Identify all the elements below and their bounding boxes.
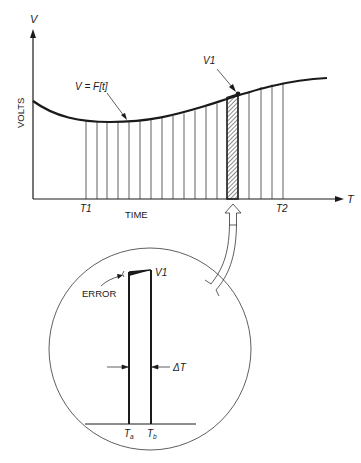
- curve-label: V = F[t]: [75, 81, 108, 92]
- integration-diagram: V VOLTS T TIME T1 T2 V = F[t]: [0, 0, 361, 463]
- delta-t-label: ΔT: [172, 362, 187, 373]
- x-axis-label: T: [347, 193, 355, 205]
- y-axis-arrow-icon: [30, 29, 36, 38]
- x-axis-arrow-icon: [335, 196, 344, 202]
- x-axis: [33, 196, 344, 202]
- error-label: ERROR: [82, 288, 116, 299]
- y-axis-label: V: [30, 13, 39, 25]
- t1-label: T1: [80, 203, 92, 214]
- curve-pointer-arrow-icon: [107, 93, 127, 120]
- ta-label: Ta: [124, 428, 134, 440]
- error-pointer-arrow-icon: [101, 271, 124, 286]
- y-axis-title: VOLTS: [15, 98, 26, 128]
- magnify-arrow-icon: [211, 204, 241, 290]
- y-axis: [30, 29, 36, 199]
- delta-t-dimension: [107, 365, 170, 369]
- tb-label: Tb: [147, 428, 157, 440]
- highlighted-strip: [227, 94, 238, 199]
- integration-strips: [86, 83, 283, 200]
- x-axis-title: TIME: [125, 209, 148, 220]
- v1-pointer-arrow-icon: [217, 69, 236, 92]
- t2-label: T2: [276, 203, 288, 214]
- v1-label: V1: [203, 55, 215, 66]
- inset-v1-label: V1: [155, 267, 167, 278]
- v1-point: [236, 92, 241, 97]
